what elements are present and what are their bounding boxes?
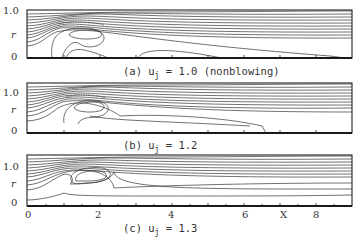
x-tick-0: 0 [25, 209, 31, 220]
x-tick-6: 6 [242, 209, 248, 220]
y-axis-label-a: r [11, 29, 17, 40]
caption-a: (a) uj = 1.0 (nonblowing) [123, 65, 280, 80]
y-tick-1.0-a: 1.0 [3, 5, 19, 16]
y-tick-0-b: 0 [11, 125, 17, 136]
y-tick-1.0-c: 1.0 [3, 161, 19, 172]
x-tick-8: 8 [313, 209, 319, 220]
streamline-figure: 1.0 r 0 [0, 0, 363, 242]
y-axis-label-b: r [11, 104, 17, 115]
panel-a: 1.0 r 0 [3, 5, 352, 80]
y-tick-0-a: 0 [11, 51, 17, 62]
x-tick-2: 2 [95, 209, 101, 220]
y-tick-0-c: 0 [11, 197, 17, 208]
streamlines-c [27, 156, 352, 200]
panel-c: 1.0 r 0 [3, 155, 352, 237]
streamlines-a [27, 11, 352, 58]
x-tick-4: 4 [168, 209, 174, 220]
x-axis-label: X [280, 209, 288, 220]
panel-b: 1.0 r 0 (b) uj = 1 [3, 83, 352, 154]
y-axis-label-c: r [11, 178, 17, 189]
caption-c: (c) uj = 1.3 [123, 222, 197, 237]
y-tick-1.0-b: 1.0 [3, 87, 19, 98]
streamlines-b [27, 84, 352, 133]
caption-b: (b) uj = 1.2 [123, 139, 197, 154]
